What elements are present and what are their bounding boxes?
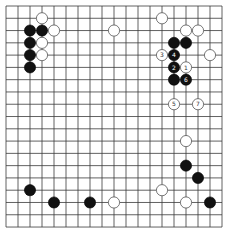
- white-stone[interactable]: [180, 135, 191, 146]
- black-stone-disc: [180, 160, 191, 171]
- black-stone-disc: [24, 62, 35, 73]
- white-stone-disc: [204, 50, 215, 61]
- white-stone-disc: [36, 50, 47, 61]
- black-stone-disc: [24, 50, 35, 61]
- white-stone[interactable]: [108, 25, 119, 36]
- move-number-label: 1: [184, 64, 188, 71]
- black-stone-disc: [36, 25, 47, 36]
- white-stone-disc: [156, 185, 167, 196]
- white-stone[interactable]: [36, 50, 47, 61]
- black-stone[interactable]: [204, 197, 215, 208]
- black-stone[interactable]: [180, 37, 191, 48]
- black-stone-disc: [168, 74, 179, 85]
- black-stone[interactable]: [48, 197, 59, 208]
- white-stone-disc: [180, 25, 191, 36]
- black-stone-disc: [192, 172, 203, 183]
- white-stone-disc: [192, 25, 203, 36]
- black-stone-disc: [48, 197, 59, 208]
- move-number-label: 7: [196, 100, 200, 107]
- move-number-label: 5: [172, 100, 176, 107]
- white-stone[interactable]: [180, 197, 191, 208]
- black-stone-disc: [24, 37, 35, 48]
- white-stone[interactable]: [108, 197, 119, 208]
- white-stone[interactable]: [180, 25, 191, 36]
- black-stone-disc: [24, 185, 35, 196]
- black-stone-disc: [180, 37, 191, 48]
- white-stone[interactable]: [156, 13, 167, 24]
- white-stone[interactable]: [48, 25, 59, 36]
- white-stone-disc: [180, 197, 191, 208]
- black-stone[interactable]: 6: [180, 74, 191, 85]
- black-stone[interactable]: [24, 185, 35, 196]
- white-stone-disc: [108, 25, 119, 36]
- white-stone-disc: [36, 37, 47, 48]
- black-stone-disc: [204, 197, 215, 208]
- black-stone[interactable]: [192, 172, 203, 183]
- go-board[interactable]: 3421657: [0, 0, 227, 233]
- black-stone[interactable]: 4: [168, 50, 179, 61]
- white-stone-disc: [108, 197, 119, 208]
- white-stone[interactable]: 5: [168, 99, 179, 110]
- black-stone[interactable]: [24, 37, 35, 48]
- black-stone[interactable]: [168, 74, 179, 85]
- white-stone[interactable]: 1: [180, 62, 191, 73]
- black-stone[interactable]: [36, 25, 47, 36]
- white-stone[interactable]: [204, 50, 215, 61]
- white-stone[interactable]: [36, 13, 47, 24]
- black-stone[interactable]: 2: [168, 62, 179, 73]
- white-stone[interactable]: [156, 185, 167, 196]
- black-stone-disc: [168, 37, 179, 48]
- white-stone[interactable]: 7: [192, 99, 203, 110]
- move-number-label: 2: [172, 64, 176, 71]
- white-stone[interactable]: 3: [156, 50, 167, 61]
- move-number-label: 3: [160, 51, 164, 58]
- move-number-label: 4: [172, 51, 176, 58]
- black-stone[interactable]: [84, 197, 95, 208]
- black-stone-disc: [84, 197, 95, 208]
- white-stone-disc: [48, 25, 59, 36]
- move-number-label: 6: [184, 76, 188, 83]
- black-stone[interactable]: [24, 25, 35, 36]
- go-board-canvas[interactable]: 3421657: [0, 0, 227, 233]
- black-stone-disc: [24, 25, 35, 36]
- white-stone[interactable]: [36, 37, 47, 48]
- black-stone[interactable]: [24, 62, 35, 73]
- black-stone[interactable]: [24, 50, 35, 61]
- black-stone[interactable]: [168, 37, 179, 48]
- white-stone-disc: [36, 13, 47, 24]
- black-stone[interactable]: [180, 160, 191, 171]
- white-stone-disc: [156, 13, 167, 24]
- white-stone-disc: [180, 135, 191, 146]
- white-stone[interactable]: [192, 25, 203, 36]
